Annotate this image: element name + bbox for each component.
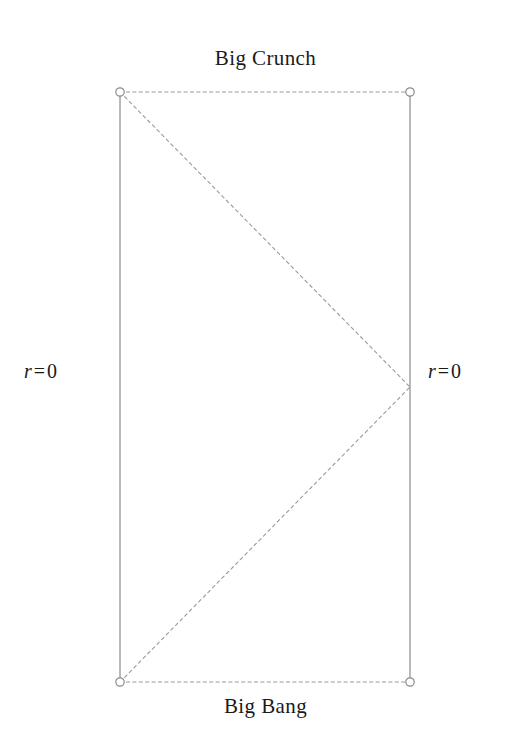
vertex-top-left-marker	[116, 88, 124, 96]
big-crunch-label-text: Big Crunch	[215, 46, 316, 71]
null-ray-lower-edge	[120, 387, 410, 682]
big-crunch-label: Big Crunch	[0, 46, 507, 71]
left-axis-symbol: r	[24, 360, 32, 382]
right-axis-equals: =	[436, 360, 451, 382]
right-axis-symbol: r	[428, 360, 436, 382]
vertex-top-right-marker	[406, 88, 414, 96]
diagram-canvas: Big Crunch Big Bang r=0 r=0	[0, 0, 507, 734]
right-axis-label: r=0	[428, 360, 461, 383]
vertex-bottom-right-marker	[406, 678, 414, 686]
null-ray-upper-edge	[120, 92, 410, 387]
left-axis-value: 0	[47, 360, 57, 382]
left-axis-equals: =	[32, 360, 47, 382]
left-axis-label: r=0	[24, 360, 57, 383]
big-bang-label: Big Bang	[0, 694, 507, 719]
right-axis-value: 0	[451, 360, 461, 382]
vertex-bottom-left-marker	[116, 678, 124, 686]
big-bang-label-text: Big Bang	[224, 694, 307, 719]
